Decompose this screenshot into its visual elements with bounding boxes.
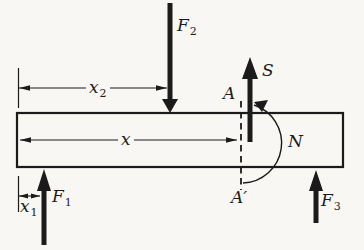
dimension-x1-subscript: 1 (31, 206, 38, 219)
force-f2-label: F2 (177, 15, 197, 37)
section-point-a-prime-label: A′ (231, 187, 247, 207)
force-f2-subscript: 2 (190, 25, 197, 38)
beam-free-body-diagram: F2 x2 x S A N A′ x1 F1 F3 (0, 0, 364, 250)
shear-s-symbol: S (262, 60, 274, 80)
force-f3-subscript: 3 (334, 200, 341, 213)
dimension-x2-subscript: 2 (100, 87, 107, 100)
dimension-x1-label: x1 (20, 196, 38, 218)
dimension-x-left-arrow-icon (20, 137, 31, 142)
section-point-a-label: A (223, 83, 235, 103)
shear-s-arrowhead-icon (242, 57, 258, 79)
force-f1-arrowhead-icon (37, 169, 51, 191)
shear-s-label: S (262, 60, 274, 80)
dimension-x-right-arrow-icon (226, 137, 237, 142)
diagram-canvas (0, 0, 364, 250)
dimension-x2-right-arrow-icon (156, 85, 167, 90)
section-point-a-symbol: A (223, 83, 235, 103)
force-f3-label: F3 (321, 190, 341, 212)
dimension-x2-symbol: x (89, 77, 99, 97)
force-f2-arrowhead-icon (162, 99, 178, 113)
force-f2-symbol: F (177, 15, 189, 35)
dimension-x-symbol: x (121, 129, 131, 149)
force-f3-arrowhead-icon (309, 170, 323, 191)
moment-n-label: N (288, 131, 303, 151)
force-f3-symbol: F (321, 190, 333, 210)
dimension-x1-symbol: x (20, 196, 30, 216)
force-f1-symbol: F (52, 186, 64, 206)
dimension-x2-left-arrow-icon (19, 85, 30, 90)
dimension-x2-label: x2 (86, 77, 110, 99)
force-f1-label: F1 (52, 186, 72, 208)
moment-n-symbol: N (288, 131, 303, 151)
force-f1-subscript: 1 (65, 196, 72, 209)
dimension-x-label: x (118, 129, 134, 149)
section-point-a-prime-symbol: A′ (231, 187, 247, 207)
